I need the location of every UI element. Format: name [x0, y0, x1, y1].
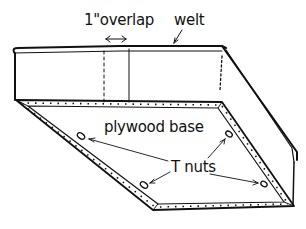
t-nut-icon: [76, 132, 86, 141]
t-nut-icon: [260, 180, 268, 188]
t-nut-icon: [139, 181, 149, 190]
overlap-label: 1"overlap: [84, 11, 154, 29]
welt-pointer: [174, 30, 182, 43]
cushion-diagram: 1"overlap welt plywood base T nuts: [0, 0, 306, 229]
side-stitching: [220, 56, 222, 90]
t-nut-icon: [225, 130, 234, 138]
plywood-base: [16, 100, 294, 210]
t-nuts-label: T nuts: [170, 158, 216, 176]
welt-diagonal: [222, 46, 297, 160]
welt-label: welt: [174, 11, 205, 29]
plywood-base-label: plywood base: [104, 118, 204, 136]
overlap-arrow: [106, 36, 126, 42]
